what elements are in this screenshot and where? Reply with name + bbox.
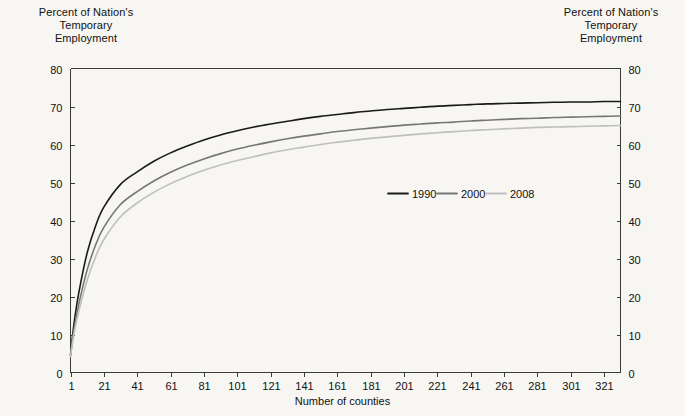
y-tick-label-left: 20	[50, 292, 62, 304]
y-tick-label-right: 50	[629, 178, 641, 190]
y-tick-label-left: 50	[50, 178, 62, 190]
y-tick-label-left: 10	[50, 330, 62, 342]
x-tick-label: 221	[428, 380, 446, 392]
legend-label-2000: 2000	[461, 188, 485, 200]
y-tick-label-left: 0	[56, 368, 62, 380]
x-tick-label: 281	[528, 380, 546, 392]
x-tick-label: 181	[362, 380, 380, 392]
x-tick-label: 141	[295, 380, 313, 392]
legend-label-1990: 1990	[412, 188, 436, 200]
x-tick-label: 21	[98, 380, 110, 392]
x-tick-label: 241	[462, 380, 480, 392]
chart-figure: Percent of Nation's Temporary Employment…	[0, 0, 685, 416]
x-tick-label: 261	[495, 380, 513, 392]
x-tick-label: 81	[198, 380, 210, 392]
y-tick-label-right: 20	[629, 292, 641, 304]
y-tick-label-right: 70	[629, 102, 641, 114]
right-axis-title: Percent of Nation's Temporary Employment	[540, 6, 682, 45]
series-line-1990	[71, 102, 621, 355]
y-tick-label-right: 80	[629, 64, 641, 76]
x-tick-label: 161	[328, 380, 346, 392]
x-axis-label: Number of counties	[0, 395, 685, 407]
chart-legend: 199020002008	[388, 188, 534, 200]
x-tick-label: 201	[395, 380, 413, 392]
left-axis-title: Percent of Nation's Temporary Employment	[6, 6, 166, 45]
y-tick-label-right: 60	[629, 140, 641, 152]
y-tick-label-right: 40	[629, 216, 641, 228]
y-tick-label-right: 30	[629, 254, 641, 266]
y-tick-label-left: 60	[50, 140, 62, 152]
x-tick-label: 121	[262, 380, 280, 392]
y-tick-label-right: 10	[629, 330, 641, 342]
data-series-lines	[71, 102, 621, 357]
x-tick-label: 101	[228, 380, 246, 392]
y-tick-label-left: 80	[50, 64, 62, 76]
x-axis-ticks: 1214161811011211411611812012212412612813…	[68, 373, 613, 392]
x-tick-label: 61	[165, 380, 177, 392]
y-tick-label-left: 70	[50, 102, 62, 114]
series-line-2000	[71, 116, 621, 356]
x-tick-label: 1	[68, 380, 74, 392]
x-tick-label: 41	[131, 380, 143, 392]
x-tick-label: 321	[595, 380, 613, 392]
line-chart-plot: 1214161811011211411611812012212412612813…	[0, 0, 685, 416]
y-tick-label-left: 30	[50, 254, 62, 266]
y-tick-label-right: 0	[629, 368, 635, 380]
x-tick-label: 301	[562, 380, 580, 392]
series-line-2008	[71, 126, 621, 357]
y-tick-label-left: 40	[50, 216, 62, 228]
legend-label-2008: 2008	[510, 188, 534, 200]
